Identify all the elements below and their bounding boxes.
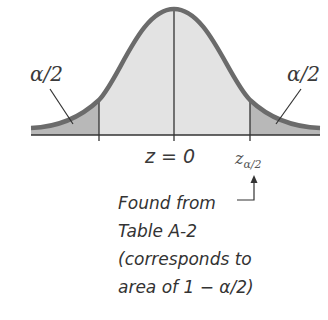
critical-z-subscript: α/2 [243,158,261,171]
right-tail-pointer [276,89,301,124]
critical-z-label: zα/2 [235,149,262,171]
note-line-3: (corresponds to [118,245,252,273]
note-line-4: area of 1 − α/2) [118,273,254,301]
normal-distribution-diagram: α/2 α/2 z = 0 zα/2 Found from Table A-2 … [0,0,328,320]
right-tail-label: α/2 [287,62,320,86]
left-tail-fill [31,100,99,135]
left-tail-label: α/2 [30,62,63,86]
left-tail-pointer [50,89,73,124]
up-arrow-icon [251,175,258,183]
note-line-1: Found from [118,189,216,217]
center-z-label: z = 0 [145,145,195,167]
note-connector-line [237,182,254,200]
right-tail-fill [250,100,320,135]
note-line-2: Table A-2 [118,217,197,245]
